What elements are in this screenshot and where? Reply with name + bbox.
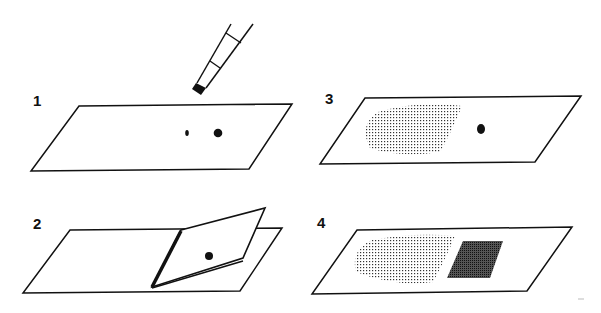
coverslip [152, 208, 265, 287]
pipette-icon [192, 24, 253, 95]
panel-label-3: 3 [325, 90, 333, 107]
smear-area-4 [355, 235, 455, 284]
panel-1 [31, 24, 292, 171]
panel-label-4: 4 [317, 214, 325, 231]
covered-drop [205, 252, 213, 260]
panel-3 [320, 96, 581, 164]
panel-label-2: 2 [33, 215, 41, 232]
small-drop [185, 130, 189, 136]
smear-area [366, 104, 463, 154]
panel-4 [312, 227, 584, 299]
slide-1 [31, 104, 292, 171]
large-drop [214, 129, 223, 138]
diagram-canvas [0, 0, 601, 313]
stained-square [447, 241, 503, 278]
panel-label-1: 1 [33, 92, 41, 109]
drop-3 [477, 124, 485, 134]
panel-2 [23, 208, 282, 293]
